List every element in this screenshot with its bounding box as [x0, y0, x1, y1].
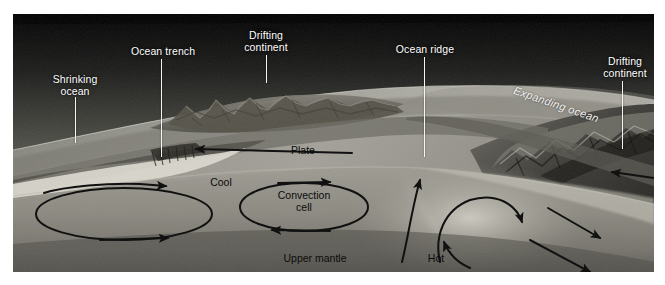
plate-tectonics-figure: Shrinking ocean Ocean trench Drifting co… [0, 0, 665, 285]
scene [13, 14, 654, 274]
middle-cell-arrow-top [278, 182, 330, 183]
photo-grain-overlay [13, 14, 654, 272]
diagram-canvas [0, 0, 665, 285]
middle-cell-arrow-bottom [272, 230, 330, 231]
